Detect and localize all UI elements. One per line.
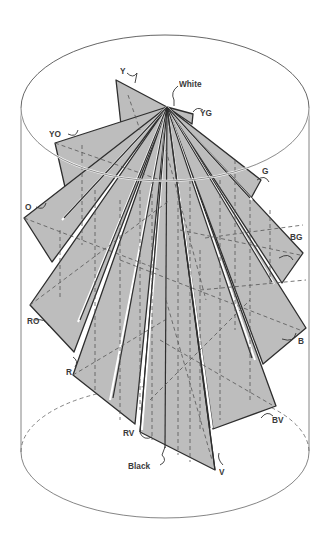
- cylinder-bottom-front-arc: [21, 452, 309, 518]
- label-yg: YG: [200, 109, 212, 118]
- label-v: V: [219, 468, 225, 477]
- label-rv: RV: [123, 429, 134, 438]
- label-r: R: [66, 368, 72, 377]
- label-y: Y: [120, 67, 126, 76]
- label-black: Black: [128, 462, 150, 471]
- label-bg: BG: [290, 233, 302, 242]
- pointer-y-icon: [127, 73, 137, 83]
- diagram-canvas: [0, 0, 324, 539]
- pointer-v-icon: [219, 453, 224, 465]
- color-solid-diagram: White Y YG YO G O BG RO B R BV RV Black …: [0, 0, 324, 539]
- label-o: O: [25, 203, 31, 212]
- pointer-white-icon: [173, 86, 178, 106]
- label-b: B: [298, 337, 304, 346]
- label-white: White: [179, 80, 202, 89]
- pointer-r-icon: [73, 357, 77, 367]
- pointer-black-icon: [160, 447, 165, 465]
- label-bv: BV: [272, 416, 284, 425]
- label-g: G: [262, 167, 268, 176]
- pointer-yo-icon: [68, 130, 78, 135]
- label-ro: RO: [27, 317, 39, 326]
- label-yo: YO: [49, 130, 61, 139]
